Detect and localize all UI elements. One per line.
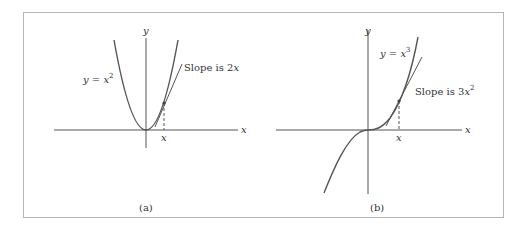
x-axis-label: x xyxy=(465,124,471,135)
cubic-curve xyxy=(324,37,418,193)
tangent-line xyxy=(155,64,182,127)
tangent-label-text: Slope is 3 xyxy=(415,86,464,97)
point-x-label: x xyxy=(161,132,167,143)
figure-frame xyxy=(24,13,504,218)
point-x-label: x xyxy=(396,132,402,143)
curve-label: y = x3 xyxy=(379,46,411,59)
tangent-label-text: Slope is 2 xyxy=(184,62,233,73)
tangent-label: Slope is 2x xyxy=(184,62,239,73)
tangent-label-var: x xyxy=(233,62,239,73)
panel-b: y x x y = x3 Slope is 3x2 (b) xyxy=(276,25,475,213)
tangent-label: Slope is 3x2 xyxy=(415,84,475,97)
y-axis-label: y xyxy=(364,25,371,36)
curve-label: y = x2 xyxy=(82,72,114,85)
curve-label-lhs: y = x xyxy=(379,48,406,59)
tangent-point xyxy=(162,101,165,104)
curve-label-lhs: y = x xyxy=(82,74,109,85)
curve-label-exponent: 3 xyxy=(406,46,410,54)
x-axis-label: x xyxy=(241,124,247,135)
figure: y x x y = x2 Slope is 2x (a) y x x y = x… xyxy=(0,0,521,231)
tangent-label-exponent: 2 xyxy=(470,84,474,92)
tangent-point xyxy=(397,99,400,102)
y-axis-label: y xyxy=(142,25,149,36)
panel-caption: (a) xyxy=(139,202,153,213)
panel-caption: (b) xyxy=(370,202,384,213)
curve-label-exponent: 2 xyxy=(109,72,113,80)
panel-a: y x x y = x2 Slope is 2x (a) xyxy=(54,25,247,213)
